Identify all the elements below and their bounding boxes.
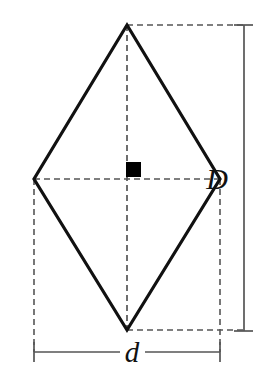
rhombus-diagram: D d — [0, 0, 263, 375]
dimension-label-minor: d — [125, 336, 140, 368]
right-angle-marker-icon — [126, 162, 141, 177]
dimension-label-major: D — [205, 162, 228, 195]
diagram-canvas: D d — [0, 0, 263, 375]
